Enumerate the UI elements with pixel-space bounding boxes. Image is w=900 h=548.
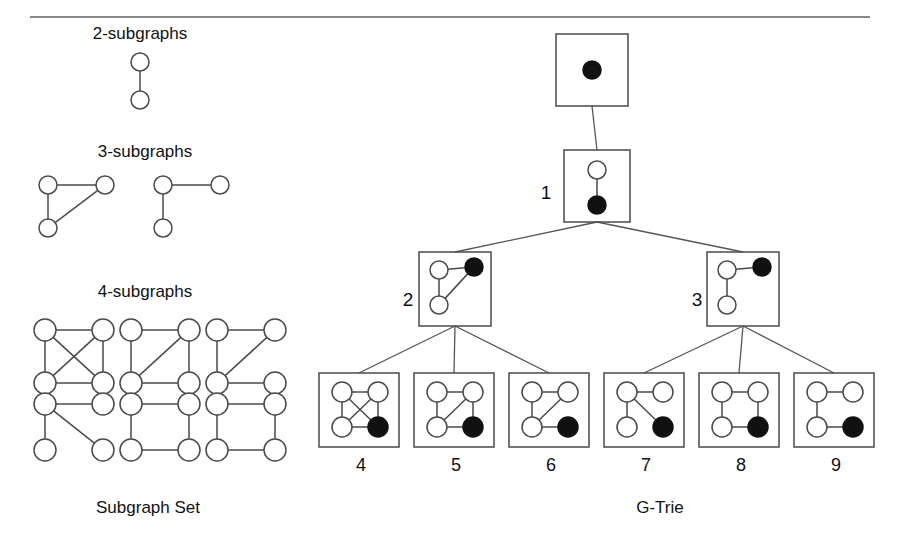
subgraph-cycle-plus-diagonal-vertex-br-open xyxy=(178,372,200,394)
trie-node-3-edge-tl-tr xyxy=(736,268,753,269)
trie-node-2-vertex-bl-open xyxy=(430,296,448,314)
trie-leaf-7-vertex-tr-open xyxy=(653,382,673,402)
link-1-2 xyxy=(455,222,597,252)
trie-leaf-4-vertex-br-filled xyxy=(368,417,388,437)
trie-node-2-edge-tl-tr xyxy=(448,268,465,269)
subgraph-cycle-plus-diagonal-edge-tr-bl xyxy=(139,337,181,375)
trie-leaf-8-vertex-tl-open xyxy=(712,382,732,402)
trie-leaf-6-vertex-tl-open xyxy=(522,382,542,402)
trie-leaf-9[interactable] xyxy=(794,373,874,447)
trie-leaf-9-box[interactable] xyxy=(794,373,874,447)
section-title-3-subgraphs: 3-subgraphs xyxy=(98,142,193,162)
subgraph-star-three-leaves-vertex-bl-open xyxy=(34,439,56,461)
subgraph-cycle-plus-diagonal-vertex-tr-open xyxy=(178,319,200,341)
subgraph-triangle-with-tail-vertex-bl-open xyxy=(206,372,228,394)
trie-leaf-5-vertex-tl-open xyxy=(427,382,447,402)
trie-node-1-box[interactable] xyxy=(564,150,630,222)
caption-subgraph-set: Subgraph Set xyxy=(96,498,200,518)
trie-node-2-box[interactable] xyxy=(419,252,491,326)
link-3-8 xyxy=(739,326,743,373)
trie-leaf-9-vertex-tr-open xyxy=(843,382,863,402)
subgraph-star-three-leaves-edge-tl-br xyxy=(54,411,95,443)
trie-leaf-6[interactable] xyxy=(509,373,589,447)
subgraph-triangle-edge-bl-tr xyxy=(55,190,98,222)
subgraph-cycle-plus-diagonal-vertex-bl-open xyxy=(120,372,142,394)
link-2-5 xyxy=(454,326,455,373)
trie-leaf-6-label: 6 xyxy=(546,455,556,476)
trie-leaf-4-label: 4 xyxy=(356,455,366,476)
subgraph-cycle-plus-diagonal xyxy=(120,319,200,394)
trie-leaf-4-edge-tr-bl xyxy=(349,399,371,420)
caption-g-trie: G-Trie xyxy=(636,498,684,518)
trie-leaf-5-vertex-bl-open xyxy=(427,417,447,437)
trie-leaf-7-box[interactable] xyxy=(604,373,684,447)
trie-leaf-5-box[interactable] xyxy=(414,373,494,447)
trie-leaf-5-edge-tr-bl xyxy=(444,399,466,420)
trie-leaf-6-box[interactable] xyxy=(509,373,589,447)
trie-node-1-vertex-b-filled xyxy=(588,196,606,214)
subgraph-cycle-four-a-vertex-tl-open xyxy=(120,393,142,415)
subgraph-cycle-four-a-vertex-br-open xyxy=(178,439,200,461)
section-title-2-subgraphs: 2-subgraphs xyxy=(93,24,188,44)
trie-node-3-vertex-tr-filled xyxy=(753,258,771,276)
section-title-4-subgraphs: 4-subgraphs xyxy=(98,282,193,302)
trie-leaf-7-vertex-tl-open xyxy=(617,382,637,402)
link-2-4 xyxy=(359,326,455,373)
subgraph-k4-complete xyxy=(34,319,114,394)
subgraph-two-node-edge xyxy=(131,53,149,109)
subgraph-two-node-edge-vertex-b-open xyxy=(131,91,149,109)
trie-leaf-6-vertex-tr-open xyxy=(558,382,578,402)
trie-root[interactable] xyxy=(556,34,628,106)
subgraph-cycle-four-a-vertex-tr-open xyxy=(178,393,200,415)
trie-node-3-vertex-tl-open xyxy=(718,261,736,279)
trie-leaf-4-edge-tl-br xyxy=(349,399,371,420)
trie-leaf-6-edge-bl-tr xyxy=(539,399,561,420)
subgraph-cycle-four-b-vertex-tl-open xyxy=(206,393,228,415)
subgraph-triangle-vertex-tl-open xyxy=(39,176,57,194)
trie-leaf-8[interactable] xyxy=(699,373,779,447)
trie-leaf-9-vertex-br-filled xyxy=(843,417,863,437)
link-root-1 xyxy=(592,106,597,150)
trie-leaf-4-box[interactable] xyxy=(319,373,399,447)
trie-leaf-8-vertex-tr-open xyxy=(748,382,768,402)
trie-leaf-4[interactable] xyxy=(319,373,399,447)
trie-leaf-5-label: 5 xyxy=(451,455,461,476)
subgraph-k4-complete-vertex-bl-open xyxy=(34,372,56,394)
trie-leaf-6-vertex-br-filled xyxy=(558,417,578,437)
trie-root-box[interactable] xyxy=(556,34,628,106)
subgraph-triangle-with-tail-vertex-br-open xyxy=(264,372,286,394)
trie-node-3[interactable] xyxy=(707,252,779,326)
subgraph-cycle-four-b-vertex-bl-open xyxy=(206,439,228,461)
trie-node-2-vertex-tr-filled xyxy=(465,258,483,276)
trie-leaf-7-edge-tl-br xyxy=(634,399,656,420)
trie-leaf-4-vertex-bl-open xyxy=(332,417,352,437)
trie-leaf-6-vertex-bl-open xyxy=(522,417,542,437)
link-3-9 xyxy=(743,326,834,373)
subgraph-k4-complete-vertex-br-open xyxy=(92,372,114,394)
trie-node-3-box[interactable] xyxy=(707,252,779,326)
trie-node-2[interactable] xyxy=(419,252,491,326)
subgraph-cycle-four-a-vertex-bl-open xyxy=(120,439,142,461)
subgraph-path-three-vertex-tr-open xyxy=(211,176,229,194)
subgraph-triangle xyxy=(39,176,114,237)
subgraph-triangle-with-tail-edge-bl-tr xyxy=(225,337,267,375)
trie-leaf-7-vertex-bl-open xyxy=(617,417,637,437)
trie-leaf-8-box[interactable] xyxy=(699,373,779,447)
subgraph-cycle-four-b-vertex-br-open xyxy=(264,439,286,461)
subgraph-k4-complete-vertex-tl-open xyxy=(34,319,56,341)
trie-leaf-9-vertex-tl-open xyxy=(807,382,827,402)
subgraph-star-three-leaves-vertex-tl-open xyxy=(34,393,56,415)
link-1-3 xyxy=(597,222,743,252)
trie-leaf-5[interactable] xyxy=(414,373,494,447)
subgraph-cycle-plus-diagonal-vertex-tl-open xyxy=(120,319,142,341)
trie-leaf-5-vertex-tr-open xyxy=(463,382,483,402)
subgraph-triangle-vertex-bl-open xyxy=(39,219,57,237)
trie-leaf-4-vertex-tr-open xyxy=(368,382,388,402)
subgraph-k4-complete-vertex-tr-open xyxy=(92,319,114,341)
trie-node-3-vertex-bl-open xyxy=(718,296,736,314)
trie-leaf-9-vertex-bl-open xyxy=(807,417,827,437)
trie-node-1[interactable] xyxy=(564,150,630,222)
subgraph-star-three-leaves xyxy=(34,393,114,461)
trie-leaf-7[interactable] xyxy=(604,373,684,447)
link-2-6 xyxy=(455,326,549,373)
